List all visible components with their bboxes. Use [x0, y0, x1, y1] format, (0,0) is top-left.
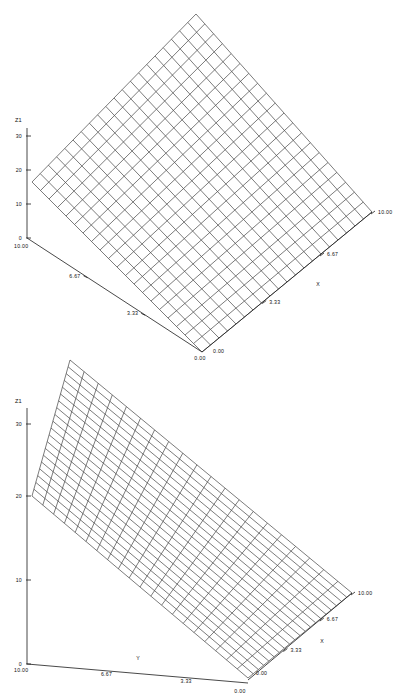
- z-tick-30: 30: [16, 421, 22, 427]
- y-axis-name: Y: [136, 655, 140, 661]
- y-tick-10.00: 10.00: [14, 243, 28, 249]
- y-tick-6.67: 6.67: [101, 671, 112, 677]
- wireframe-mesh-top: [32, 14, 372, 352]
- axis-lines-top: [26, 128, 375, 352]
- x-axis-name: X: [316, 281, 320, 287]
- z-tick-10: 10: [16, 201, 22, 207]
- x-tick-6.67: 6.67: [327, 251, 338, 257]
- z-tick-0: 0: [19, 235, 22, 241]
- panel-bottom-canvas: Z1302010010.006.673.330.00Y0.003.336.671…: [0, 348, 404, 698]
- x-tick-3.33: 3.33: [290, 647, 301, 653]
- y-tick-3.33: 3.33: [127, 310, 138, 316]
- y-tick-0.00: 0.00: [234, 688, 245, 694]
- y-tick-6.67: 6.67: [69, 273, 80, 279]
- z-axis-name: Z1: [15, 117, 22, 123]
- y-tick-3.33: 3.33: [180, 678, 191, 684]
- wireframe-mesh-bottom: [32, 360, 352, 678]
- y-tick-10.00: 10.00: [14, 667, 28, 673]
- panel-top-canvas: Z1302010010.006.673.330.000.003.336.6710…: [0, 0, 404, 360]
- x-axis-name: X: [320, 638, 324, 644]
- z-axis-name: Z1: [15, 398, 22, 404]
- x-tick-10.00: 10.00: [358, 590, 372, 596]
- axis-labels-bottom: Z1302010010.006.673.330.00Y0.003.336.671…: [14, 398, 372, 694]
- x-tick-6.67: 6.67: [327, 616, 338, 622]
- axis-lines-bottom: [26, 408, 355, 683]
- x-tick-0.00: 0.00: [256, 670, 267, 676]
- surface-plot-panel-top: Z1302010010.006.673.330.000.003.336.6710…: [0, 0, 404, 360]
- z-tick-30: 30: [16, 133, 22, 139]
- z-tick-20: 20: [16, 493, 22, 499]
- z-tick-10: 10: [16, 577, 22, 583]
- x-tick-3.33: 3.33: [269, 299, 280, 305]
- x-tick-10.00: 10.00: [378, 209, 392, 215]
- surface-plot-panel-bottom: Z1302010010.006.673.330.00Y0.003.336.671…: [0, 348, 404, 698]
- z-tick-20: 20: [16, 167, 22, 173]
